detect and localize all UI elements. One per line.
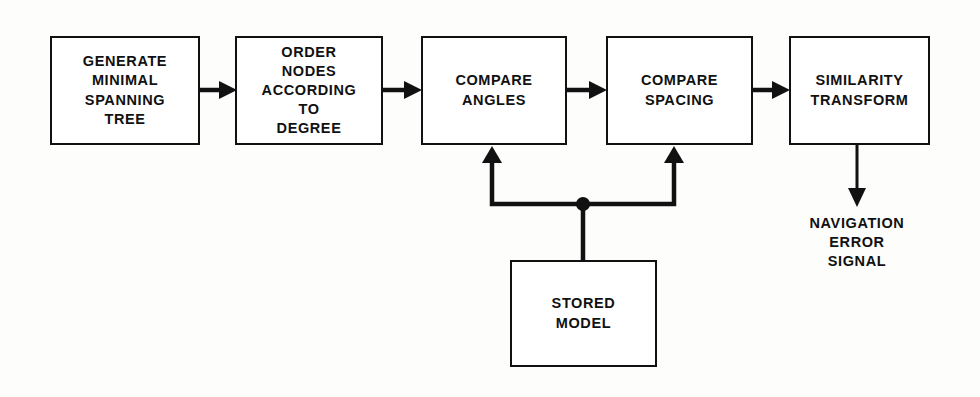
node-similarity-transform[interactable]: SIMILARITY TRANSFORM bbox=[789, 36, 930, 145]
node-label: COMPARE ANGLES bbox=[455, 71, 532, 109]
node-label: COMPARE SPACING bbox=[641, 71, 718, 109]
node-generate-minimal-spanning-tree[interactable]: GENERATE MINIMAL SPANNING TREE bbox=[50, 36, 200, 145]
node-compare-spacing[interactable]: COMPARE SPACING bbox=[606, 36, 753, 145]
edge-model-to-angles bbox=[482, 146, 583, 204]
node-label: SIMILARITY TRANSFORM bbox=[810, 71, 908, 109]
node-label: ORDER NODES ACCORDING TO DEGREE bbox=[262, 43, 357, 139]
edge-similarity-to-output bbox=[848, 145, 866, 207]
node-label: GENERATE MINIMAL SPANNING TREE bbox=[83, 52, 167, 129]
edge-angles-to-spacing bbox=[567, 81, 607, 99]
edge-model-to-spacing bbox=[583, 146, 684, 204]
node-stored-model[interactable]: STORED MODEL bbox=[510, 260, 657, 367]
edge-order-to-angles bbox=[383, 81, 422, 99]
edge-spacing-to-similarity bbox=[753, 81, 790, 99]
edge-mst-to-order bbox=[200, 81, 237, 99]
flowchart-diagram: GENERATE MINIMAL SPANNING TREE ORDER NOD… bbox=[0, 0, 980, 397]
node-label: STORED MODEL bbox=[552, 294, 616, 332]
caption-navigation-error-signal: NAVIGATION ERROR SIGNAL bbox=[757, 214, 957, 271]
node-order-nodes-according-to-degree[interactable]: ORDER NODES ACCORDING TO DEGREE bbox=[235, 36, 383, 145]
node-compare-angles[interactable]: COMPARE ANGLES bbox=[421, 36, 567, 145]
stored-model-junction-dot bbox=[576, 197, 590, 211]
